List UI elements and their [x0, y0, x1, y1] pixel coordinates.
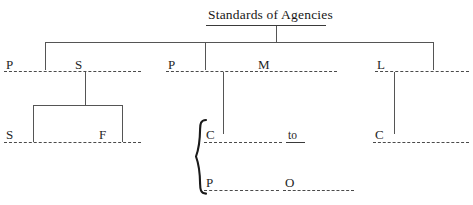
- blank-line-level2-center[interactable]: [166, 71, 337, 72]
- branch-drop-left: [45, 42, 46, 70]
- diagram-title: Standards of Agencies: [208, 8, 333, 22]
- blank-line-center-row2-b[interactable]: [283, 190, 354, 191]
- title-underline: [206, 25, 326, 26]
- level3-label-p3: P: [206, 176, 213, 189]
- level2-label-p1: P: [6, 58, 13, 71]
- left-subtree-stem: [85, 72, 86, 105]
- level3-label-c2: C: [375, 128, 384, 141]
- blank-line-level2-right[interactable]: [375, 71, 469, 72]
- blank-line-level3-right[interactable]: [373, 142, 469, 143]
- level2-horizontal-bus: [45, 42, 433, 43]
- underline-to: [286, 142, 305, 143]
- center-subtree-stem: [223, 72, 224, 134]
- level2-label-s1: S: [75, 58, 82, 71]
- left-subtree-drop-1: [33, 105, 34, 142]
- level3-label-to: to: [288, 130, 297, 142]
- level2-label-p2: P: [168, 58, 175, 71]
- level2-label-l1: L: [377, 58, 385, 71]
- level3-label-c1: C: [206, 128, 215, 141]
- right-subtree-stem: [394, 72, 395, 134]
- level3-label-f1: F: [99, 128, 106, 141]
- left-subtree-drop-2: [122, 105, 123, 142]
- diagram-canvas: Standards of Agencies P S P M L S F C to…: [0, 0, 473, 205]
- branch-drop-center: [205, 42, 206, 70]
- blank-line-level2-left[interactable]: [4, 71, 141, 72]
- root-stem-connector: [276, 26, 277, 43]
- level2-label-m1: M: [258, 58, 270, 71]
- level3-label-o1: O: [285, 176, 294, 189]
- blank-line-center-row1-a[interactable]: [204, 142, 282, 143]
- left-subtree-horizontal-bus: [33, 105, 122, 106]
- blank-line-level3-left[interactable]: [4, 142, 141, 143]
- blank-line-center-row2-a[interactable]: [204, 190, 279, 191]
- level3-label-s2: S: [6, 128, 13, 141]
- branch-drop-right: [433, 42, 434, 70]
